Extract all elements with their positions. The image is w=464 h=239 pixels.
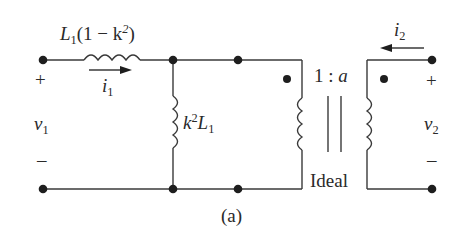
node-shunt-bottom [169, 185, 178, 194]
label-sub: 1 [107, 85, 113, 99]
current-i1-arrowhead-icon [120, 66, 132, 74]
label-close: ) [128, 23, 134, 44]
terminal-left-top [39, 56, 48, 65]
voltage-v1-label: v1 [34, 114, 49, 133]
current-i2-arrowhead-icon [380, 44, 392, 52]
secondary-polarity-dot [380, 75, 388, 83]
voltage-v2-plus: + [426, 71, 437, 90]
node-primary-bottom [234, 185, 243, 194]
secondary-coil [367, 98, 372, 150]
shunt-inductor-label: k2L1 [183, 113, 214, 132]
label-sup: 2 [122, 22, 128, 36]
figure-caption: (a) [221, 206, 242, 225]
label-sub: 2 [432, 123, 438, 137]
series-inductor-label: L1(1 − k2) [60, 24, 135, 43]
primary-polarity-dot [283, 75, 291, 83]
current-i2-label: i2 [394, 20, 405, 39]
label-sup: 2 [191, 111, 197, 125]
label-symbol: L [198, 112, 209, 133]
voltage-v2-label: v2 [424, 114, 439, 133]
current-i1-label: i1 [102, 76, 113, 95]
label-expr: (1 − k [77, 23, 123, 44]
turns-ratio-label: 1 : a [314, 66, 348, 85]
series-inductor-coil [84, 55, 140, 60]
voltage-v1-plus: + [35, 70, 46, 89]
label-sub: 1 [71, 33, 77, 47]
node-primary-top [234, 56, 243, 65]
shunt-inductor-coil [173, 96, 178, 148]
ratio-left: 1 : [314, 65, 338, 86]
label-sub: 1 [42, 123, 48, 137]
label-sub: 1 [208, 122, 214, 136]
label-symbol: L [60, 23, 71, 44]
label-sub: 2 [399, 29, 405, 43]
transformer-ideal-label: Ideal [310, 171, 348, 190]
node-shunt-top [169, 56, 178, 65]
voltage-v2-minus: – [427, 150, 437, 169]
ratio-right: a [338, 65, 348, 86]
terminal-right-top [428, 56, 437, 65]
terminal-left-bottom [39, 185, 48, 194]
terminal-right-bottom [428, 185, 437, 194]
voltage-v1-minus: – [37, 150, 47, 169]
primary-coil [298, 98, 303, 150]
